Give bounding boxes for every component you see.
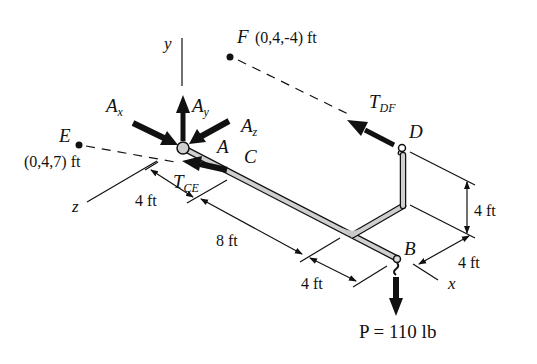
dimension-4ft-x: 4 ft <box>419 236 480 271</box>
point-e: E (0,4,7) ft <box>24 125 83 171</box>
x-axis: x <box>413 264 456 293</box>
point-f-dot <box>227 54 234 61</box>
dimension-branch-b-label: 4 ft <box>301 275 323 292</box>
point-a-label: A <box>215 136 229 157</box>
point-f: F (0,4,-4) ft <box>227 26 318 61</box>
y-axis: y <box>162 34 182 86</box>
point-f-coords: (0,4,-4) ft <box>255 29 317 47</box>
point-d-label: D <box>408 121 423 142</box>
force-ay-label: Ay <box>190 95 210 119</box>
point-e-dot <box>76 142 83 149</box>
dimension-8ft: 8 ft <box>201 199 340 262</box>
force-az-label: Az <box>239 115 258 139</box>
dimension-4ft-height: 4 ft <box>410 152 496 238</box>
force-tdf-label: TDF <box>369 91 396 115</box>
point-e-coords: (0,4,7) ft <box>24 153 81 171</box>
force-tdf-arrow <box>347 120 394 145</box>
force-p-label: P = 110 lb <box>359 321 436 342</box>
point-e-label: E <box>58 125 71 146</box>
y-axis-label: y <box>162 34 172 53</box>
point-c-label: C <box>244 146 257 167</box>
hook-b <box>394 256 401 276</box>
z-axis-label: z <box>71 197 79 216</box>
force-ax-label: Ax <box>104 95 124 119</box>
dimension-4ft-branch-b: 4 ft <box>301 258 387 292</box>
cable-ce-line <box>86 146 175 162</box>
x-axis-label: x <box>447 274 456 293</box>
cable-df-line <box>238 60 350 115</box>
dimension-ac-label: 4 ft <box>135 192 157 209</box>
dimension-x-label: 4 ft <box>458 254 480 271</box>
force-ay-arrow <box>176 95 190 141</box>
point-b-label: B <box>404 238 416 259</box>
ball-joint-a <box>177 142 189 154</box>
rigid-frame-diagram: y z x E (0,4,7) ft F (0,4,-4) ft <box>0 0 537 364</box>
force-p-arrow <box>389 277 403 316</box>
dimension-height-label: 4 ft <box>474 202 496 219</box>
force-tce-label: TCE <box>173 171 200 195</box>
dimension-8ft-label: 8 ft <box>216 232 238 249</box>
force-ax-arrow <box>133 123 178 145</box>
point-f-label: F <box>236 26 249 47</box>
